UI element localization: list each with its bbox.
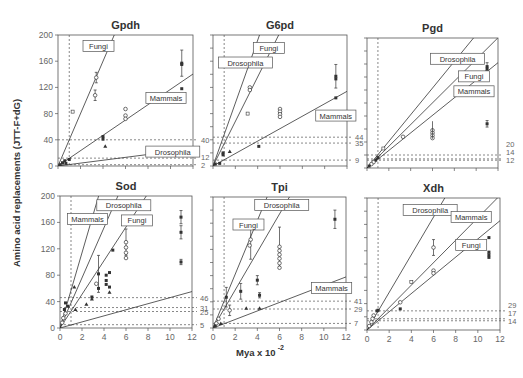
- data-point: [244, 306, 248, 310]
- data-point: [217, 317, 221, 321]
- svg-text:Fungi: Fungi: [462, 241, 481, 250]
- data-point: [108, 286, 111, 289]
- y-tick-label: 40: [46, 297, 56, 307]
- data-point: [124, 240, 128, 244]
- data-point: [256, 279, 259, 282]
- x-tick-label: 12: [495, 334, 505, 344]
- data-point: [487, 256, 490, 259]
- data-point: [258, 294, 261, 297]
- y-tick-label: 40: [44, 135, 54, 145]
- hline-label: 12: [506, 156, 514, 165]
- data-point: [258, 306, 262, 310]
- data-point: [278, 249, 282, 253]
- data-point: [278, 245, 282, 249]
- data-point: [180, 261, 183, 264]
- data-point: [73, 308, 77, 312]
- x-tick-label: 6: [431, 334, 436, 344]
- data-point: [228, 309, 232, 313]
- data-point: [102, 138, 105, 141]
- data-point: [124, 246, 128, 250]
- panel-gpdh: Gpdh0408012016020040122FungiMammalsDroso…: [39, 19, 210, 171]
- x-tick-label: 4: [255, 332, 260, 342]
- panel-title: Sod: [116, 180, 137, 192]
- line-label-drosophila: Drosophila: [255, 199, 309, 210]
- data-point: [257, 145, 260, 148]
- data-point: [59, 163, 62, 166]
- y-tick-label: 200: [41, 191, 55, 201]
- data-point: [486, 65, 489, 68]
- svg-text:Mammals: Mammals: [320, 112, 353, 121]
- x-tick-label: 6: [277, 332, 282, 342]
- panel-tpi: Tpi02468101241297FungiDrosophilaMammals: [210, 181, 362, 342]
- data-point: [370, 320, 374, 324]
- data-point: [111, 249, 114, 252]
- x-tick-label: 2: [233, 332, 238, 342]
- svg-text:Mammals: Mammals: [71, 215, 104, 224]
- line-label-fungi: Fungi: [233, 219, 264, 230]
- panel-title: Pgd: [422, 22, 443, 34]
- line-label-mammals: Mammals: [146, 92, 186, 103]
- x-tick-label: 4: [409, 334, 414, 344]
- svg-text:Drosophila: Drosophila: [264, 201, 301, 210]
- data-point: [72, 285, 76, 289]
- data-point: [105, 279, 108, 282]
- line-label-drosophila: Drosophila: [403, 204, 457, 215]
- x-tick-label: 0: [211, 332, 216, 342]
- data-point: [222, 153, 225, 156]
- y-tick-label: 120: [41, 244, 55, 254]
- x-tick-label: 8: [453, 334, 458, 344]
- data-point: [180, 216, 183, 219]
- panel-title: G6pd: [266, 19, 294, 31]
- data-point: [334, 77, 337, 80]
- line-label-mammals: Mammals: [67, 214, 107, 225]
- x-tick-label: 6: [124, 332, 129, 342]
- svg-text:Drosophila: Drosophila: [106, 201, 143, 210]
- data-point: [84, 302, 88, 306]
- svg-text:Fungi: Fungi: [239, 221, 258, 230]
- x-tick-label: 2: [387, 334, 392, 344]
- svg-text:Mammals: Mammals: [458, 87, 491, 96]
- svg-text:Mammals: Mammals: [150, 94, 183, 103]
- data-point: [487, 251, 490, 254]
- svg-text:Drosophila: Drosophila: [412, 206, 449, 215]
- y-tick-label: 80: [46, 270, 56, 280]
- svg-text:Mammals: Mammals: [455, 213, 488, 222]
- data-point: [278, 266, 282, 270]
- line-label-drosophila: Drosophila: [218, 57, 272, 68]
- y-tick-label: 0: [48, 161, 53, 171]
- data-point: [66, 305, 69, 308]
- svg-text:Fungi: Fungi: [259, 44, 278, 53]
- data-point: [93, 93, 97, 97]
- y-tick-label: 0: [50, 323, 55, 333]
- x-tick-label: 8: [146, 332, 151, 342]
- panel-sod: Sod024681012040801201602004631255Mammals…: [41, 180, 209, 342]
- line-label-mammals: Mammals: [316, 110, 356, 121]
- line-label-fungi: Fungi: [456, 239, 487, 250]
- data-point: [278, 261, 282, 265]
- data-point: [62, 316, 66, 320]
- data-point: [401, 135, 405, 139]
- fit-line-fungi: [213, 35, 279, 166]
- data-point: [105, 274, 108, 277]
- line-label-mammals: Mammals: [311, 283, 351, 294]
- x-tick-label: 12: [187, 332, 197, 342]
- data-point: [218, 162, 221, 165]
- x-tick-label: 0: [58, 332, 63, 342]
- data-point: [108, 290, 112, 294]
- data-point: [487, 236, 490, 239]
- y-tick-label: 160: [39, 56, 53, 66]
- hline-label: 7: [354, 319, 358, 328]
- data-point: [278, 253, 282, 257]
- line-label-fungi: Fungi: [83, 41, 114, 52]
- data-point: [214, 163, 217, 166]
- svg-text:Fungi: Fungi: [465, 72, 484, 81]
- data-point: [64, 162, 67, 165]
- hline-label: 29: [354, 305, 362, 314]
- data-point: [124, 251, 128, 255]
- x-tick-label: 12: [341, 332, 351, 342]
- data-point: [225, 296, 228, 299]
- data-point: [333, 218, 336, 221]
- data-point: [399, 307, 402, 310]
- panel-title: Gpdh: [111, 19, 140, 31]
- data-point: [368, 165, 371, 168]
